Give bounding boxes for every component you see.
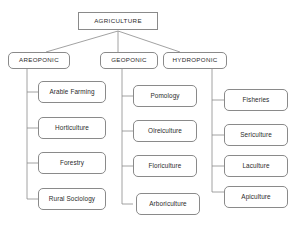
node-apiculture-label: Apiculture: [241, 194, 270, 201]
node-horticulture[interactable]: Horticulture: [38, 117, 106, 139]
node-agriculture[interactable]: AGRICULTURE: [78, 12, 158, 30]
agriculture-tree-diagram: AGRICULTURE AREOPONIC GEOPONIC HYDROPONI…: [0, 0, 301, 227]
node-geoponic[interactable]: GEOPONIC: [100, 52, 158, 69]
node-hydroponic-label: HYDROPONIC: [173, 57, 218, 64]
node-arboriculture[interactable]: Arboriculture: [136, 193, 200, 215]
node-laculture[interactable]: Laculture: [224, 155, 288, 177]
node-apiculture[interactable]: Apiculture: [224, 186, 288, 208]
node-olreiculture-label: Olreiculture: [148, 128, 182, 135]
node-fisheries[interactable]: Fisheries: [224, 89, 288, 111]
node-pomology-label: Pomology: [150, 93, 179, 100]
node-sericulture-label: Sericulture: [240, 132, 272, 139]
node-arable-farming[interactable]: Arable Farming: [38, 81, 106, 103]
node-arboriculture-label: Arboriculture: [149, 201, 187, 208]
node-floriculture[interactable]: Floriculture: [133, 155, 197, 177]
node-forestry-label: Forestry: [60, 160, 84, 167]
node-forestry[interactable]: Forestry: [38, 152, 106, 174]
node-geoponic-label: GEOPONIC: [111, 57, 147, 64]
node-areoponic[interactable]: AREOPONIC: [8, 52, 70, 69]
node-laculture-label: Laculture: [242, 163, 269, 170]
node-arable-farming-label: Arable Farming: [49, 89, 94, 96]
node-floriculture-label: Floriculture: [149, 163, 182, 170]
node-pomology[interactable]: Pomology: [133, 85, 197, 107]
node-rural-sociology[interactable]: Rural Sociology: [38, 188, 106, 210]
node-rural-sociology-label: Rural Sociology: [49, 196, 95, 203]
node-agriculture-label: AGRICULTURE: [94, 18, 142, 25]
node-fisheries-label: Fisheries: [243, 97, 270, 104]
node-areoponic-label: AREOPONIC: [19, 57, 59, 64]
node-olreiculture[interactable]: Olreiculture: [133, 120, 197, 142]
node-horticulture-label: Horticulture: [55, 125, 89, 132]
node-hydroponic[interactable]: HYDROPONIC: [163, 52, 227, 69]
node-sericulture[interactable]: Sericulture: [224, 124, 288, 146]
